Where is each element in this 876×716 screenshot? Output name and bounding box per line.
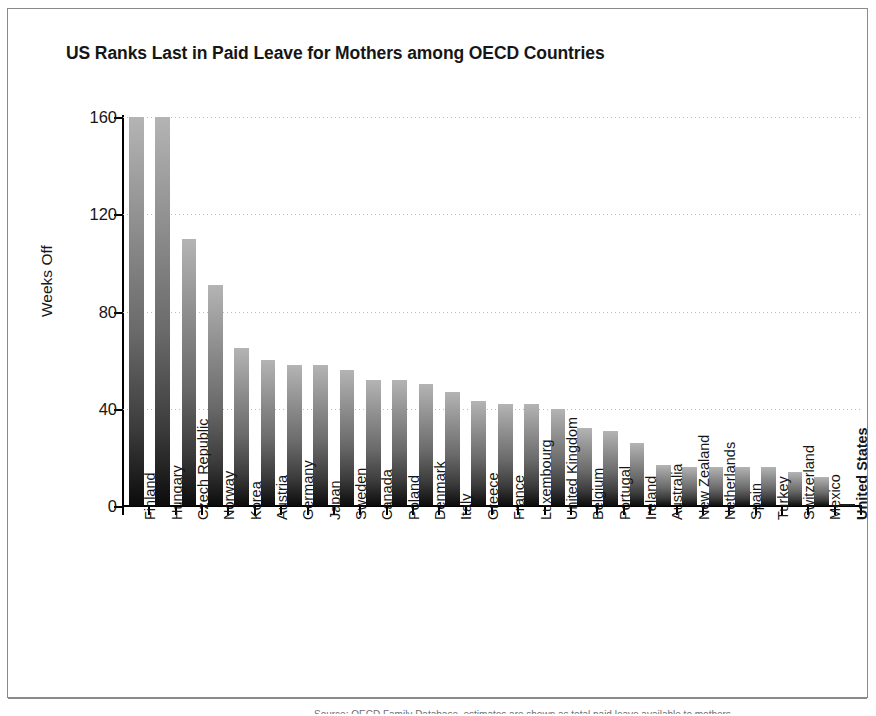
chart-figure: US Ranks Last in Paid Leave for Mothers … (7, 8, 868, 698)
y-tick-label: 160 (89, 108, 117, 127)
x-tick-label: United Kingdom (564, 417, 580, 520)
x-tick-label: Greece (485, 472, 501, 520)
x-tick-label: Korea (248, 481, 264, 520)
y-tick-label: 0 (108, 497, 117, 516)
x-tick-label: Italy (458, 493, 474, 520)
x-tick-label: Switzerland (801, 445, 817, 520)
x-tick-label: Turkey (775, 476, 791, 520)
x-tick-label: Belgium (590, 468, 606, 520)
x-tick-label: Spain (748, 483, 764, 520)
bar (129, 117, 144, 506)
y-tick-label: 40 (99, 399, 117, 418)
x-tick-label: Luxembourg (538, 439, 554, 520)
y-tick-label: 80 (99, 302, 117, 321)
x-tick-label: United States (854, 427, 870, 520)
x-tick-label: Japan (327, 480, 343, 520)
x-tick-label: Norway (221, 471, 237, 520)
x-tick-label: Austria (274, 475, 290, 520)
x-tick-label: Germany (300, 460, 316, 520)
x-tick-label: Denmark (432, 461, 448, 520)
plot-area: 04080120160 (123, 117, 861, 506)
x-tick-mark (122, 506, 124, 515)
x-tick-label: New Zealand (696, 435, 712, 520)
footer-divider (8, 698, 867, 699)
x-tick-label: Sweden (353, 468, 369, 520)
x-tick-label: Ireland (643, 476, 659, 520)
x-tick-label: Netherlands (722, 442, 738, 520)
x-tick-label: Hungary (169, 465, 185, 520)
x-tick-label: Czech Republic (195, 418, 211, 520)
x-tick-label: Finland (142, 472, 158, 520)
bar (471, 401, 486, 506)
source-note: Source: OECD Family Database, estimates … (314, 709, 874, 716)
bar (155, 117, 170, 506)
x-tick-label: Australia (669, 464, 685, 520)
x-tick-label: France (511, 475, 527, 520)
x-tick-label: Portugal (617, 466, 633, 520)
y-axis-title: Weeks Off (38, 245, 56, 317)
x-tick-label: Canada (379, 469, 395, 520)
x-tick-label: Mexico (827, 474, 843, 520)
page-title: US Ranks Last in Paid Leave for Mothers … (66, 43, 605, 64)
y-tick-label: 120 (89, 205, 117, 224)
gridline (123, 117, 861, 118)
gridline (123, 312, 861, 313)
x-tick-label: Poland (406, 475, 422, 520)
gridline (123, 214, 861, 215)
